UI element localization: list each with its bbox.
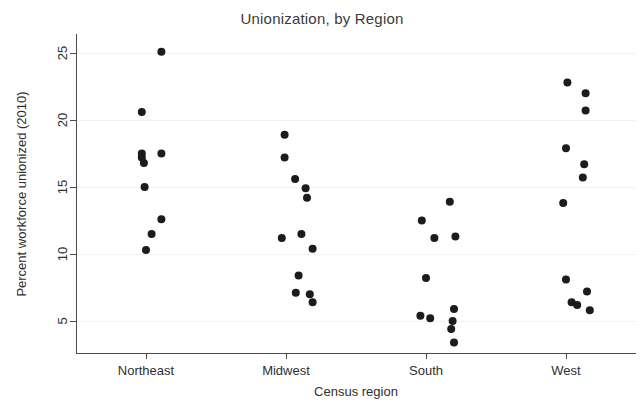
data-point [157, 150, 165, 158]
data-point [292, 289, 300, 297]
data-point [309, 245, 317, 253]
data-point [430, 234, 438, 242]
data-point [157, 215, 165, 223]
y-tick-label: 10 [55, 247, 70, 261]
data-point [281, 154, 289, 162]
data-point [450, 305, 458, 313]
data-point [449, 317, 457, 325]
data-point [426, 314, 434, 322]
data-point [450, 338, 458, 346]
data-point [142, 246, 150, 254]
data-point [141, 183, 149, 191]
x-tick-label-south: South [409, 363, 443, 378]
data-point [303, 194, 311, 202]
x-axis-ticks: NortheastMidwestSouthWest [118, 353, 581, 378]
data-point [140, 159, 148, 167]
data-point [447, 325, 455, 333]
data-point [418, 217, 426, 225]
x-tick-label-midwest: Midwest [262, 363, 310, 378]
y-tick-label: 20 [55, 113, 70, 127]
data-point [306, 290, 314, 298]
axes [76, 34, 636, 353]
data-point [295, 271, 303, 279]
data-point [451, 233, 459, 241]
data-point [278, 234, 286, 242]
data-point [309, 298, 317, 306]
scatter-plot: 510152025 NortheastMidwestSouthWest Perc… [0, 0, 644, 415]
data-point [422, 274, 430, 282]
x-tick-label-northeast: Northeast [118, 363, 175, 378]
gridlines [77, 53, 636, 321]
data-point [297, 230, 305, 238]
data-point [291, 175, 299, 183]
data-point [157, 48, 165, 56]
data-point [416, 312, 424, 320]
data-point [148, 230, 156, 238]
data-point [281, 131, 289, 139]
data-points-layer [138, 48, 594, 347]
data-point [562, 275, 570, 283]
x-tick-label-west: West [551, 363, 581, 378]
x-axis-title: Census region [314, 384, 398, 399]
data-point [563, 78, 571, 86]
chart-container: Unionization, by Region 510152025 Northe… [0, 0, 644, 415]
data-point [582, 89, 590, 97]
data-point [302, 184, 310, 192]
y-tick-label: 15 [55, 180, 70, 194]
y-tick-label: 5 [55, 317, 70, 324]
data-point [580, 160, 588, 168]
data-point [582, 107, 590, 115]
data-point [579, 174, 587, 182]
data-point [559, 199, 567, 207]
data-point [586, 306, 594, 314]
data-point [562, 144, 570, 152]
data-point [583, 288, 591, 296]
y-tick-label: 25 [55, 46, 70, 60]
data-point [573, 301, 581, 309]
y-axis-ticks: 510152025 [55, 46, 76, 325]
data-point [138, 108, 146, 116]
y-axis-title: Percent workforce unionized (2010) [14, 91, 29, 296]
data-point [446, 198, 454, 206]
